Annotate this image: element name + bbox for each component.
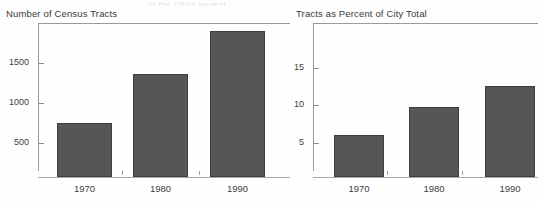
bar-left-1990	[210, 31, 265, 177]
x-label-right-1970: 1970	[334, 183, 384, 194]
y-tick-mark	[313, 105, 319, 106]
y-tick-label: 1500	[9, 57, 29, 67]
chart-title-left: Number of Census Tracts	[6, 8, 117, 19]
x-tick-mark-left-1	[122, 171, 123, 175]
y-tick-label: 15	[294, 62, 304, 72]
y-tick-mark	[313, 143, 319, 144]
x-axis-line-left	[38, 177, 290, 178]
bar-left-1980	[133, 74, 188, 177]
chart-title-right: Tracts as Percent of City Total	[296, 8, 427, 19]
x-tick-mark-left-2	[199, 171, 200, 175]
bar-right-1990	[485, 86, 535, 177]
bar-right-1970	[334, 135, 384, 177]
bar-left-1970	[57, 123, 112, 177]
x-label-left-1980: 1980	[133, 183, 188, 194]
x-axis-line-right	[313, 177, 538, 178]
y-tick-mark	[313, 68, 319, 69]
y-tick-label: 500	[14, 137, 29, 147]
x-tick-mark-right-2	[462, 171, 463, 175]
x-tick-mark-right-1	[387, 171, 388, 175]
y-tick-mark	[38, 103, 44, 104]
y-tick-label: 10	[294, 99, 304, 109]
chart-panel-census-tracts: Number of Census Tracts 1500 1000 500 19…	[0, 0, 290, 206]
x-label-right-1990: 1990	[485, 183, 535, 194]
x-label-right-1980: 1980	[409, 183, 459, 194]
x-label-left-1970: 1970	[57, 183, 112, 194]
bar-right-1980	[409, 107, 459, 177]
chart-panel-percent-of-city: Tracts as Percent of City Total 15 10 5 …	[290, 0, 533, 206]
y-tick-label: 5	[299, 137, 304, 147]
y-tick-mark	[38, 143, 44, 144]
x-label-left-1990: 1990	[210, 183, 265, 194]
y-tick-label: 1000	[9, 97, 29, 107]
y-tick-mark	[38, 63, 44, 64]
